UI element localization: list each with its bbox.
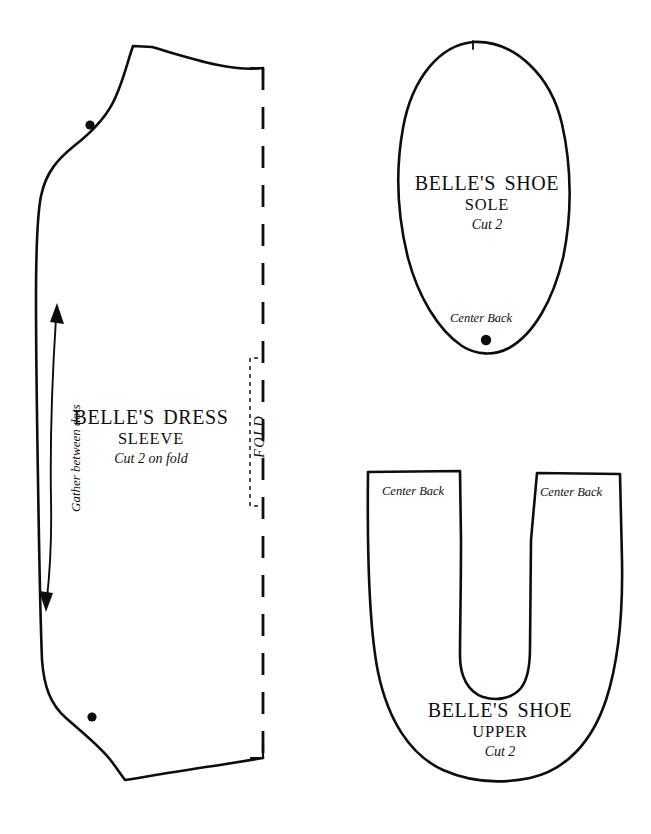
gather-arrow-shaft: [47, 318, 56, 598]
gather-arrow-head-top: [50, 303, 64, 324]
gather-dot-top: [85, 120, 94, 129]
shoe-sole-cut-instruction: Cut 2: [403, 217, 571, 233]
shoe-upper-center-back-label-left: Center Back: [382, 484, 444, 499]
pattern-sheet: BELLE'S DRESS SLEEVE Cut 2 on fold Gathe…: [0, 0, 651, 834]
sleeve-title: BELLE'S DRESS: [68, 406, 234, 428]
fold-label: FOLD: [251, 415, 268, 458]
shoe-sole-subtitle: SOLE: [403, 196, 571, 214]
shoe-upper-center-back-label-right: Center Back: [540, 485, 602, 500]
sleeve-label-block: BELLE'S DRESS SLEEVE Cut 2 on fold: [68, 406, 234, 467]
sleeve-cut-instruction: Cut 2 on fold: [68, 451, 234, 467]
shoe-upper-subtitle: UPPER: [412, 723, 588, 741]
shoe-upper-title: BELLE'S SHOE: [412, 699, 588, 721]
shoe-sole-title: BELLE'S SHOE: [403, 172, 571, 194]
sleeve-subtitle: SLEEVE: [68, 430, 234, 448]
shoe-upper-label-block: BELLE'S SHOE UPPER Cut 2: [412, 699, 588, 760]
gather-between-dots-label: Gather between dots: [68, 404, 84, 512]
gather-dot-bottom: [87, 712, 96, 721]
shoe-sole-label-block: BELLE'S SHOE SOLE Cut 2: [403, 172, 571, 233]
fold-line-bottom-corner: [251, 746, 263, 758]
shoe-sole-center-back-dot: [481, 335, 491, 345]
shoe-sole-center-back-label: Center Back: [450, 311, 512, 326]
shoe-upper-cut-instruction: Cut 2: [412, 744, 588, 760]
